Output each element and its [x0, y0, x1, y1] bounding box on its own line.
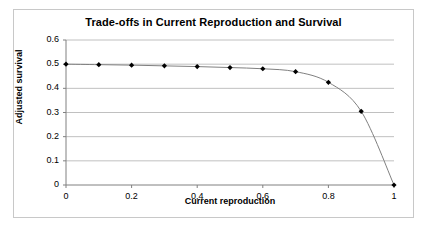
x-tick-label: 0.4 [182, 191, 212, 201]
data-point-marker [195, 64, 200, 69]
x-tick-label: 0.6 [248, 191, 278, 201]
y-tick-label: 0.4 [33, 82, 59, 92]
data-series-markers [63, 62, 396, 188]
y-tick-label: 0.2 [33, 131, 59, 141]
data-point-marker [260, 66, 265, 71]
x-tick-label: 0.8 [313, 191, 343, 201]
gridlines [66, 40, 394, 161]
x-tick-label: 1 [379, 191, 409, 201]
data-point-marker [96, 62, 101, 67]
data-point-marker [391, 182, 396, 187]
data-point-marker [359, 109, 364, 114]
y-tick-label: 0 [33, 179, 59, 189]
y-tick-label: 0.5 [33, 58, 59, 68]
y-tick-label: 0.1 [33, 155, 59, 165]
y-tick-label: 0.6 [33, 34, 59, 44]
x-tick-label: 0.2 [117, 191, 147, 201]
y-tick-label: 0.3 [33, 107, 59, 117]
data-point-marker [326, 80, 331, 85]
data-point-marker [63, 62, 68, 67]
data-point-marker [293, 69, 298, 74]
data-point-marker [227, 65, 232, 70]
x-tick-label: 0 [51, 191, 81, 201]
data-point-marker [129, 63, 134, 68]
chart-figure: Trade-offs in Current Reproduction and S… [0, 0, 427, 231]
data-series-line [66, 64, 394, 185]
